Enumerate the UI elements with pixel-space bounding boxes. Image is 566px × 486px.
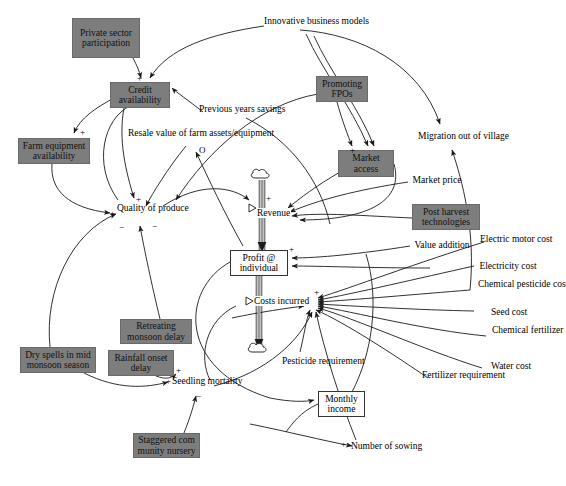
link-chemical-pesticide-cost-to-costs <box>318 290 470 302</box>
node-market-price: Market price <box>406 175 468 185</box>
polarity-quality-top: + <box>136 195 141 204</box>
polarity-costs-right: + <box>314 288 319 297</box>
node-private-sector-participation[interactable]: Private sector participation <box>72 18 140 58</box>
link-monthly-income-segment <box>286 404 318 432</box>
node-profit-at-individual[interactable]: Profit @ individual <box>230 250 288 276</box>
node-chemical-pesticide-cost: Chemical pesticide cost <box>478 279 548 289</box>
cloud-sink <box>248 343 266 352</box>
node-seed-cost: Seed cost <box>480 307 538 317</box>
polarity-market-access: + <box>369 137 374 146</box>
link-monthly-income-loop <box>352 254 373 392</box>
link-profit-to-resale <box>196 152 243 246</box>
node-staggered-community-nursery[interactable]: Staggered com munity nursery <box>133 433 200 458</box>
link-number-of-sowing-to-costs <box>316 312 356 440</box>
node-market-access[interactable]: Market access <box>338 150 394 177</box>
link-farm-equipment-to-quality <box>52 164 110 213</box>
polarity-resale-o: O <box>199 146 206 155</box>
node-post-harvest-technologies[interactable]: Post harvest technologies <box>412 204 480 230</box>
polarity-seedling-2: + <box>166 377 171 386</box>
link-innovative-to-credit <box>150 26 264 78</box>
cloud-source <box>251 169 269 178</box>
node-innovative-business-models: Innovative business models <box>264 16 344 26</box>
polarity-quality-below: − <box>119 223 124 232</box>
link-electric-motor-cost-to-costs <box>318 242 484 298</box>
node-pesticide-requirement: Pesticide requirement <box>282 356 350 366</box>
node-promoting-fpos[interactable]: Promoting FPOs <box>316 76 368 102</box>
link-seed-cost-to-costs <box>318 304 474 311</box>
link-credit-to-quality <box>122 108 134 198</box>
polarity-quality-below-2: − <box>152 222 157 231</box>
valve-revenue <box>249 204 256 212</box>
label-revenue: Revenue <box>256 208 291 218</box>
link-left-to-costs <box>232 306 304 318</box>
polarity-credit-in: + <box>137 74 142 83</box>
node-resale-value-of-farm-assets-equipment: Resale value of farm assets/equipment <box>128 128 232 138</box>
link-quality-arc <box>103 106 130 200</box>
causal-loop-diagram: Private sector participation Credit avai… <box>0 0 566 486</box>
node-seedling-mortality: Seedling mortality <box>172 376 222 386</box>
node-value-addition: Value addition <box>408 240 476 250</box>
polarity-farm-equipment: + <box>80 128 85 137</box>
polarity-number-of-sowing: + <box>341 440 346 449</box>
polarity-quality-left: + <box>110 209 115 218</box>
cloud-source-shape <box>251 169 269 178</box>
link-staggered-nursery-to-seedling <box>184 396 196 433</box>
link-to-number-of-sowing <box>250 424 352 446</box>
link-value-addition-to-profit <box>292 246 410 258</box>
polarity-profit-right: + <box>289 245 294 254</box>
polarity-revenue-in: + <box>266 194 271 203</box>
node-farm-equipment-availability[interactable]: Farm equipment availability <box>18 138 90 164</box>
node-chemical-fertilizer-cost: Chemical fertilizer cost <box>492 325 562 335</box>
node-migration-out-of-village: Migration out of village <box>418 131 502 141</box>
link-dry-spells-to-quality <box>49 214 116 347</box>
node-retreating-monsoon-delay[interactable]: Retreating monsoon delay <box>120 319 192 344</box>
node-monthly-income[interactable]: Monthly income <box>318 391 365 417</box>
link-costs-arc-left <box>205 306 236 380</box>
node-rainfall-onset-delay[interactable]: Rainfall onset delay <box>108 350 174 376</box>
node-fertilizer-requirement: Fertilizer requirement <box>422 370 490 380</box>
node-credit-availability[interactable]: Credit availability <box>110 82 170 108</box>
node-number-of-sowing: Number of sowing <box>351 441 413 451</box>
link-fpos-to-market-access <box>337 102 352 146</box>
node-dry-spells-in-mid-monsoon-season[interactable]: Dry spells in mid monsoon season <box>20 347 96 373</box>
node-electricity-cost: Electricity cost <box>474 261 542 271</box>
valve-costs <box>246 297 253 305</box>
polarity-seedling-1: + <box>176 366 181 375</box>
node-electric-motor-cost: Electric motor cost <box>480 234 552 244</box>
label-costs-incurred: Costs incurred <box>253 296 310 306</box>
link-market-price-to-revenue <box>290 182 408 212</box>
node-quality-of-produce: Quality of produce <box>117 203 169 213</box>
node-previous-years-savings: Previous years savings <box>199 104 271 114</box>
cloud-sink-shape <box>248 343 266 352</box>
link-retreating-monsoon-to-quality <box>140 226 160 319</box>
polarity-seedling-3: − <box>196 392 201 401</box>
polarity-market-access-2: + <box>350 146 355 155</box>
